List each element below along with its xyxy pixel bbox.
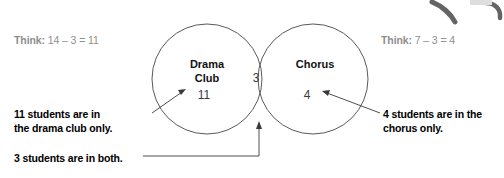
caption-drama-club-only: 11 students are in the drama club only.	[14, 107, 154, 135]
think-hint-left-prefix: Think:	[14, 34, 45, 46]
caption-chorus-only: 4 students are in the chorus only.	[383, 107, 504, 135]
caption-drama-club-only-line2: the drama club only.	[14, 121, 154, 135]
think-hint-right: Think: 7 – 3 = 4	[381, 34, 455, 46]
venn-label-chorus: Chorus	[283, 57, 347, 71]
venn-count-drama-only: 11	[189, 88, 219, 102]
venn-count-chorus-only: 4	[297, 88, 317, 102]
think-hint-right-prefix: Think:	[381, 34, 412, 46]
caption-chorus-only-line1: 4 students are in the	[383, 107, 504, 121]
venn-count-intersection: 3	[246, 71, 266, 85]
venn-label-drama-club: Drama Club	[175, 57, 239, 85]
venn-circle-chorus	[258, 24, 368, 134]
think-hint-left-equation: 14 – 3 = 11	[48, 34, 99, 46]
caption-drama-club-only-line1: 11 students are in	[14, 107, 154, 121]
caption-both: 3 students are in both.	[14, 151, 174, 165]
venn-label-drama-club-line1: Drama	[175, 57, 239, 71]
venn-diagram-figure: Think: 14 – 3 = 11 Think: 7 – 3 = 4 Dram…	[0, 0, 504, 178]
leader-line-chorus-only	[322, 90, 380, 113]
think-hint-right-equation: 7 – 3 = 4	[415, 34, 455, 46]
venn-label-chorus-line1: Chorus	[283, 57, 347, 71]
venn-label-drama-club-line2: Club	[175, 71, 239, 85]
cropped-illustration-fragment-icon	[432, 0, 500, 22]
think-hint-left: Think: 14 – 3 = 11	[14, 34, 99, 46]
caption-chorus-only-line2: chorus only.	[383, 121, 504, 135]
